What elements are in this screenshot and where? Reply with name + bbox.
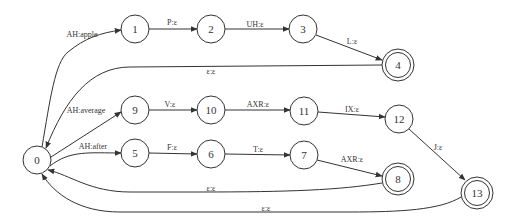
svg-text:7: 7 xyxy=(301,149,307,161)
edge-label-5-6: F:ε xyxy=(167,143,178,152)
svg-text:0: 0 xyxy=(34,154,40,166)
edge-6-7 xyxy=(225,154,290,155)
svg-text:8: 8 xyxy=(395,173,401,185)
edge-12-13 xyxy=(409,129,465,180)
edge-label-3-4: L:ε xyxy=(347,37,358,46)
state-node-3: 3 xyxy=(289,15,317,43)
state-node-9: 9 xyxy=(121,96,149,124)
state-node-12: 12 xyxy=(385,105,413,133)
edge-label-2-3: UH:ε xyxy=(246,20,264,29)
edge-label-6-7: T:ε xyxy=(253,145,264,154)
svg-text:9: 9 xyxy=(132,104,138,116)
edge-label-1-2: P:ε xyxy=(167,18,178,27)
final-state-node-8: 8 xyxy=(382,163,414,195)
svg-text:6: 6 xyxy=(208,148,214,160)
transducer-diagram: AH:apple P:ε UH:ε L:ε ε:ε AH:average V:ε… xyxy=(0,0,515,223)
edge-label-13-0: ε:ε xyxy=(262,204,272,213)
final-state-node-4: 4 xyxy=(382,49,414,81)
final-state-node-13: 13 xyxy=(461,177,493,209)
state-node-7: 7 xyxy=(290,141,318,169)
state-node-6: 6 xyxy=(197,140,225,168)
state-node-10: 10 xyxy=(197,96,225,124)
edge-label-8-0: ε:ε xyxy=(207,184,217,193)
edge-label-11-12: IX:ε xyxy=(345,105,360,114)
edge-5-6 xyxy=(149,153,197,154)
svg-text:2: 2 xyxy=(208,23,214,35)
edge-label-0-9: AH:average xyxy=(67,106,106,115)
state-node-0: 0 xyxy=(23,146,51,174)
svg-text:3: 3 xyxy=(300,23,306,35)
state-node-5: 5 xyxy=(121,139,149,167)
svg-text:12: 12 xyxy=(394,113,405,125)
edge-label-7-8: AXR:ε xyxy=(341,155,364,164)
svg-text:1: 1 xyxy=(132,23,138,35)
state-node-1: 1 xyxy=(121,15,149,43)
edge-label-0-5: AH:after xyxy=(79,142,108,151)
svg-text:11: 11 xyxy=(299,105,310,117)
state-node-2: 2 xyxy=(197,15,225,43)
svg-text:13: 13 xyxy=(472,187,484,199)
edge-label-9-10: V:ε xyxy=(165,100,176,109)
edge-label-10-11: AXR:ε xyxy=(247,100,270,109)
svg-text:5: 5 xyxy=(132,147,138,159)
edge-label-4-0: ε:ε xyxy=(207,67,217,76)
edge-label-0-1: AH:apple xyxy=(66,30,98,39)
state-node-11: 11 xyxy=(290,97,318,125)
edge-0-5 xyxy=(50,153,121,166)
edge-label-12-13: J:ε xyxy=(434,143,443,152)
svg-text:10: 10 xyxy=(206,104,218,116)
svg-text:4: 4 xyxy=(395,59,401,71)
